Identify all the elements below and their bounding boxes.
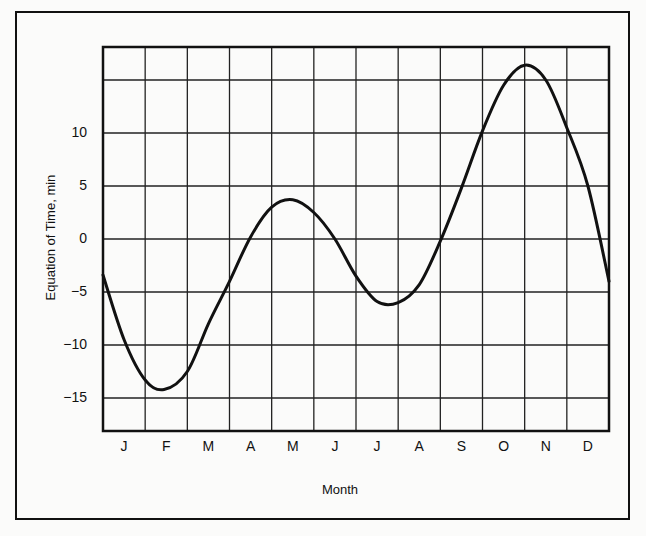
x-tick-label: M <box>272 438 313 454</box>
x-tick-label: A <box>399 438 440 454</box>
x-tick-label: M <box>188 438 229 454</box>
y-tick-label: −10 <box>47 336 87 352</box>
x-tick-label: N <box>525 438 566 454</box>
x-axis-title: Month <box>290 482 390 497</box>
x-tick-label: J <box>357 438 398 454</box>
y-axis-title: Equation of Time, min <box>43 138 58 338</box>
plot-area <box>0 0 646 536</box>
x-tick-label: J <box>104 438 145 454</box>
x-tick-label: D <box>567 438 608 454</box>
x-tick-label: O <box>483 438 524 454</box>
y-tick-label: −15 <box>47 389 87 405</box>
x-tick-label: A <box>230 438 271 454</box>
x-tick-label: J <box>314 438 355 454</box>
grid-lines <box>103 47 609 431</box>
x-tick-label: F <box>146 438 187 454</box>
x-tick-label: S <box>441 438 482 454</box>
